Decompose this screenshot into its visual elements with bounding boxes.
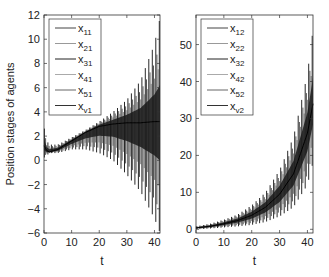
y-axis-label: Position stages of agents — [4, 62, 16, 185]
y-tick-label: −2 — [27, 179, 40, 191]
y-tick-label: 6 — [34, 82, 40, 94]
x-tick-label: 40 — [148, 236, 160, 248]
y-tick-label: 20 — [180, 149, 192, 161]
y-tick-label: 12 — [28, 9, 40, 21]
x-axis-label: t — [100, 254, 104, 268]
y-tick-label: −6 — [27, 227, 40, 239]
x-tick-label: 10 — [218, 236, 230, 248]
y-tick-label: 30 — [180, 112, 192, 124]
x-axis-label: t — [253, 254, 257, 268]
y-tick-label: 40 — [180, 76, 192, 88]
y-tick-label: 10 — [180, 186, 192, 198]
x-tick-label: 20 — [246, 236, 258, 248]
y-tick-label: 8 — [34, 57, 40, 69]
legend: x12x22x32x42x52xv2 — [201, 19, 253, 115]
x-tick-label: 20 — [93, 236, 105, 248]
y-tick-label: 0 — [34, 154, 40, 166]
chart-canvas: 010203040−6−4−2024681012tPosition stages… — [0, 0, 329, 277]
x-tick-label: 30 — [273, 236, 285, 248]
x-tick-label: 0 — [41, 236, 47, 248]
right-subplot: 01020304001020304050tx12x22x32x42x52xv2 — [180, 15, 314, 268]
y-tick-label: 10 — [28, 33, 40, 45]
x-tick-label: 10 — [65, 236, 77, 248]
left-subplot: 010203040−6−4−2024681012tPosition stages… — [4, 9, 161, 268]
y-tick-label: −4 — [27, 203, 40, 215]
y-tick-label: 2 — [34, 130, 40, 142]
y-tick-label: 4 — [34, 106, 40, 118]
y-tick-label: 0 — [186, 223, 192, 235]
x-tick-label: 0 — [193, 236, 199, 248]
x-tick-label: 40 — [301, 236, 313, 248]
y-tick-label: 50 — [180, 39, 192, 51]
legend: x11x21x31x41x51xv1 — [49, 19, 101, 115]
x-tick-label: 30 — [121, 236, 133, 248]
figure: 010203040−6−4−2024681012tPosition stages… — [0, 0, 329, 277]
